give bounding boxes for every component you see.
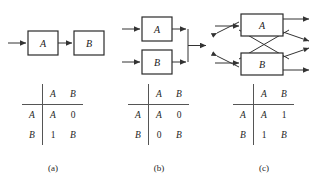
table-row: B 0 B [128,125,189,145]
table-row: B 1 B [22,125,83,145]
table-row: A B [128,84,189,105]
diagram-parallel-svg: A B [106,4,212,82]
table-cell: 0 [149,125,170,145]
table-area-b: A B A A 0 B 0 B [106,84,212,156]
table-cell: B [274,125,294,145]
diagram-series: A B [0,4,106,82]
table-row: A A 1 [233,105,294,126]
table-col-header: A [149,84,170,105]
table-row: A A 0 [22,105,83,126]
diagram-crossover: A B [211,4,317,82]
table-cell: A [43,105,64,126]
caption-c: (c) [211,163,317,173]
block-b-label: B [86,38,92,49]
table-cell: B [169,125,189,145]
composition-table-a: A B A A 0 B 1 B [22,84,83,145]
block-a-label: A [39,38,47,49]
table-row-header: B [128,125,149,145]
block-a-label: A [258,20,266,31]
wire-cross-input-up [217,22,239,33]
wire-cross-input-down [217,56,239,67]
table-corner-cell [22,84,43,105]
block-b-label: B [154,57,160,68]
caption-b: (b) [106,163,212,173]
table-row: A B [22,84,83,105]
table-cell: 1 [274,105,294,126]
panel-c: A B A B [211,0,317,189]
table-cell: A [149,105,170,126]
panel-a: A B A B A A 0 [0,0,106,189]
block-b-label: B [259,59,265,70]
panel-b: A B A B A [106,0,212,189]
diagram-series-svg: A B [0,4,106,82]
wire-output-b-diagonal [283,48,309,57]
table-row: B 1 B [233,125,294,145]
table-row-header: A [233,105,254,126]
table-col-header: B [63,84,83,105]
table-row: A A 0 [128,105,189,126]
table-row-header: A [22,105,43,126]
table-col-header: B [274,84,294,105]
table-col-header: A [254,84,275,105]
table-row-header: B [233,125,254,145]
table-col-header: A [43,84,64,105]
table-cell: A [254,105,275,126]
table-cell: B [63,125,83,145]
table-corner-cell [128,84,149,105]
composition-table-b: A B A A 0 B 0 B [128,84,189,145]
wire-output-a-diagonal [283,32,309,41]
block-a-label: A [153,24,161,35]
table-cell: 0 [169,105,189,126]
figure-three-block-configurations: A B A B A A 0 [0,0,317,189]
diagram-crossover-svg: A B [211,4,317,82]
table-corner-cell [233,84,254,105]
table-area-a: A B A A 0 B 1 B [0,84,106,156]
table-row-header: A [128,105,149,126]
table-cell: 1 [43,125,64,145]
table-area-c: A B A A 1 B 1 B [211,84,317,156]
table-row-header: B [22,125,43,145]
caption-a: (a) [0,163,106,173]
composition-table-c: A B A A 1 B 1 B [233,84,294,145]
table-cell: 1 [254,125,275,145]
table-col-header: B [169,84,189,105]
table-row: A B [233,84,294,105]
table-cell: 0 [63,105,83,126]
diagram-parallel: A B [106,4,212,82]
